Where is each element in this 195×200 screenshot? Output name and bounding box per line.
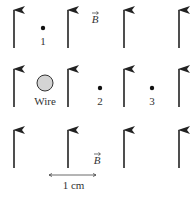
test-points: 123 xyxy=(40,26,155,107)
wire-cross-section-icon xyxy=(37,75,53,91)
b-field-label: B xyxy=(94,154,101,166)
point-3-label: 3 xyxy=(149,95,155,107)
point-1-dot xyxy=(41,26,45,30)
b-field-label: B xyxy=(92,13,99,25)
scale-bar: 1 cm xyxy=(49,174,96,192)
scale-bar-label: 1 cm xyxy=(63,179,85,191)
wire-label: Wire xyxy=(34,95,56,107)
point-1-label: 1 xyxy=(40,35,46,47)
wire: Wire xyxy=(34,75,56,107)
point-3-dot xyxy=(150,86,154,90)
point-2-dot xyxy=(98,86,102,90)
point-2-label: 2 xyxy=(97,95,103,107)
magnetic-field-diagram: 123 Wire BB 1 cm xyxy=(0,0,195,200)
field-arrows xyxy=(14,10,179,168)
